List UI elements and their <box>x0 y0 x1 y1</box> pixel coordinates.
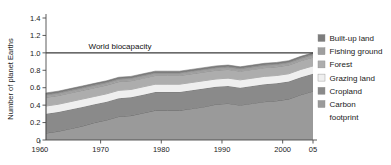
y-tick-label: 1.4 <box>30 14 40 23</box>
y-tick-label: 1.0 <box>30 49 40 58</box>
legend-label: footprint <box>330 113 360 122</box>
legend-label: Carbon <box>330 100 356 109</box>
legend-swatch <box>318 74 325 81</box>
plot-area: World biocapacity <box>46 42 313 140</box>
x-tick-label: 1970 <box>92 145 109 154</box>
footprint-area-chart: World biocapacity00.20.40.60.81.01.21.41… <box>0 0 391 165</box>
x-tick-label: 1960 <box>32 145 49 154</box>
y-tick-label: 0.4 <box>30 101 40 110</box>
legend-item: Forest <box>318 60 353 69</box>
y-tick-label: 0.2 <box>30 118 40 127</box>
x-tick-label: 05 <box>309 145 317 154</box>
legend-item: Cropland <box>318 87 362 96</box>
legend-item: Fishing ground <box>318 47 382 56</box>
x-tick-label: 1980 <box>153 145 170 154</box>
legend-label: Grazing land <box>330 74 375 83</box>
y-tick-label: 1.2 <box>30 31 40 40</box>
legend-item: Built-up land <box>318 34 374 43</box>
y-tick-label: 0.8 <box>30 66 40 75</box>
legend-item: Grazing land <box>318 74 375 83</box>
legend-label: Fishing ground <box>330 47 383 56</box>
legend-swatch <box>318 48 325 55</box>
legend-item: Carbon <box>318 100 356 109</box>
legend-label: Cropland <box>330 87 362 96</box>
legend-item: footprint <box>330 113 360 122</box>
x-tick-label: 2000 <box>274 145 291 154</box>
legend-swatch <box>318 101 325 108</box>
chart-canvas: World biocapacity00.20.40.60.81.01.21.41… <box>0 0 391 165</box>
y-tick-label: 0.6 <box>30 83 40 92</box>
legend-swatch <box>318 87 325 94</box>
legend: Built-up landFishing groundForestGrazing… <box>318 34 382 122</box>
annotation-world-biocapacity: World biocapacity <box>88 42 151 51</box>
y-axis-title: Number of planet Earths <box>6 38 15 120</box>
legend-label: Forest <box>330 60 353 69</box>
legend-swatch <box>318 61 325 68</box>
legend-swatch <box>318 35 325 42</box>
legend-label: Built-up land <box>330 34 374 43</box>
x-tick-label: 1990 <box>214 145 231 154</box>
